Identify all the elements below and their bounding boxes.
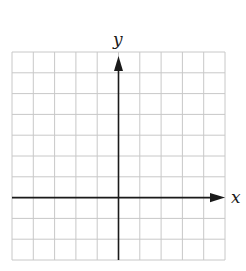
y-axis-label: y <box>112 29 123 49</box>
coordinate-plane: x y <box>0 0 246 271</box>
x-axis-arrow-icon <box>210 193 225 202</box>
y-axis-arrow-icon <box>114 56 123 71</box>
x-axis-label: x <box>231 187 241 207</box>
